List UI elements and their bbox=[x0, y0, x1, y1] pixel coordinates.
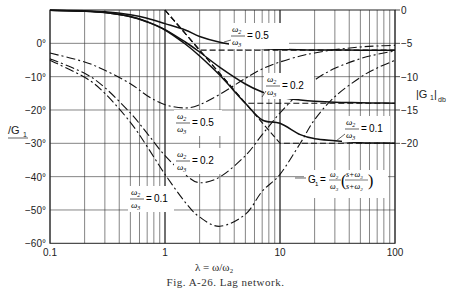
label-phase-0.2: ω2 ω3 = 0.2 bbox=[174, 148, 222, 174]
svg-text:=: = bbox=[282, 80, 288, 91]
svg-text:=: = bbox=[361, 123, 367, 134]
svg-text:=: = bbox=[247, 30, 253, 41]
label-phase-0.5: ω2 ω3 = 0.5 bbox=[174, 110, 222, 136]
svg-text:|: | bbox=[434, 88, 437, 100]
svg-text:=: = bbox=[192, 117, 198, 128]
right-tick-label: −5 bbox=[401, 38, 413, 49]
x-axis: 0.1110100 bbox=[43, 247, 404, 258]
svg-text:0.2: 0.2 bbox=[290, 80, 304, 91]
left-tick-label: −50° bbox=[25, 205, 46, 216]
svg-text:0.5: 0.5 bbox=[255, 30, 269, 41]
label-phase-0.1: ω2 ω3 = 0.1 bbox=[128, 186, 174, 212]
x-axis-label: λ = ω/ω₂ bbox=[195, 261, 233, 273]
x-tick-label: 0.1 bbox=[43, 247, 57, 258]
x-tick-label: 1 bbox=[162, 247, 168, 258]
left-tick-label: −40° bbox=[25, 172, 46, 183]
svg-text:db: db bbox=[438, 96, 446, 103]
svg-text:/G: /G bbox=[8, 124, 20, 136]
svg-text:=: = bbox=[192, 155, 198, 166]
svg-text:|G: |G bbox=[416, 88, 427, 100]
right-axis-magnitude: 0−5−10−15−20 bbox=[395, 5, 418, 149]
right-axis-title: |G 1 | db bbox=[416, 88, 446, 103]
svg-text:0.1: 0.1 bbox=[369, 123, 383, 134]
svg-text:0.1: 0.1 bbox=[154, 193, 168, 204]
label-mag-0.5: ω2 ω3 = 0.5 bbox=[224, 23, 289, 49]
right-tick-label: −20 bbox=[401, 138, 418, 149]
left-axis-phase: 0°−10°−20°−30°−40°−50°−60° bbox=[25, 38, 46, 249]
svg-text:0.2: 0.2 bbox=[200, 155, 214, 166]
svg-text:): ) bbox=[368, 172, 373, 190]
svg-text:=: = bbox=[320, 174, 326, 185]
right-tick-label: −10 bbox=[401, 72, 418, 83]
svg-text:=: = bbox=[146, 193, 152, 204]
magnitude-curve bbox=[50, 10, 395, 50]
left-tick-label: −10° bbox=[25, 72, 46, 83]
left-axis-title: /G 1 bbox=[8, 124, 28, 138]
label-mag-0.1: ω2 ω3 = 0.1 bbox=[336, 116, 390, 142]
svg-text:1: 1 bbox=[23, 131, 27, 138]
right-tick-label: −15 bbox=[401, 105, 418, 116]
x-tick-label: 100 bbox=[387, 247, 404, 258]
left-tick-label: −20° bbox=[25, 105, 46, 116]
left-tick-label: 0° bbox=[36, 38, 46, 49]
svg-text:0.5: 0.5 bbox=[200, 117, 214, 128]
left-tick-label: −30° bbox=[25, 138, 46, 149]
formula-label: G 1 = ω2 ω3 ( s+ω3 s+ω2 ) bbox=[295, 170, 388, 198]
bode-chart: 0°−10°−20°−30°−40°−50°−60° 0−5−10−15−20 … bbox=[0, 0, 451, 293]
label-mag-0.2: ω2 ω3 = 0.2 bbox=[262, 73, 314, 99]
right-tick-label: 0 bbox=[401, 5, 407, 16]
x-tick-label: 10 bbox=[274, 247, 286, 258]
figure-caption: Fig. A-26. Lag network. bbox=[0, 276, 451, 288]
